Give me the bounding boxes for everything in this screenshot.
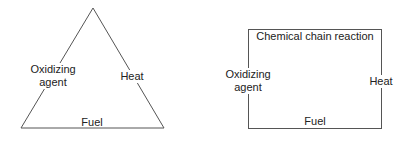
- square-label-chemical-chain-reaction: Chemical chain reaction: [254, 30, 376, 43]
- square-label-oxidizing-agent: Oxidizing agent: [224, 68, 272, 94]
- oxidizing-line2: agent: [28, 76, 78, 89]
- triangle-label-heat: Heat: [119, 70, 145, 83]
- oxidizing-line2: agent: [224, 81, 272, 94]
- oxidizing-line1: Oxidizing: [224, 68, 272, 81]
- triangle-label-fuel: Fuel: [80, 116, 104, 129]
- triangle-label-oxidizing-agent: Oxidizing agent: [28, 63, 78, 89]
- oxidizing-line1: Oxidizing: [28, 63, 78, 76]
- square-label-heat: Heat: [368, 75, 394, 88]
- square-label-fuel: Fuel: [303, 115, 327, 128]
